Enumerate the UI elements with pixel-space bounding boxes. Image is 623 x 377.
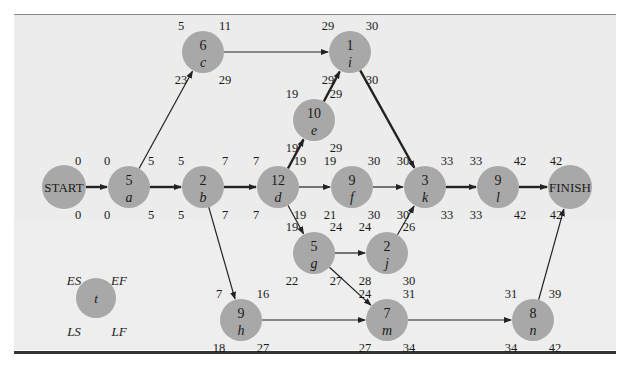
node-duration: 2 — [200, 173, 207, 188]
node-duration: 6 — [200, 38, 207, 53]
node-duration: 10 — [307, 106, 321, 121]
latest-finish: 27 — [257, 341, 270, 355]
node-duration: 2 — [384, 239, 391, 254]
node-duration: 9 — [495, 173, 502, 188]
latest-finish: 7 — [222, 208, 228, 222]
latest-finish: 42 — [549, 341, 562, 355]
node-a: 5a0505 — [104, 154, 154, 222]
node-m: 7m24312734 — [359, 287, 416, 355]
node-activity: h — [238, 323, 245, 338]
earliest-start: 19 — [286, 220, 299, 234]
earliest-finish: 11 — [219, 19, 231, 33]
node-duration: 7 — [384, 306, 391, 321]
latest-finish: 27 — [330, 274, 343, 288]
node-e: 10e19291929 — [286, 87, 343, 155]
latest-start: 19 — [286, 141, 299, 155]
node-duration: 1 — [347, 38, 354, 53]
node-activity: l — [496, 190, 500, 205]
node-j: 2j24262830 — [359, 220, 416, 288]
earliest-start: 19 — [286, 87, 299, 101]
node-activity: m — [382, 323, 392, 338]
node-duration: 9 — [349, 173, 356, 188]
node-k: 3k30333033 — [397, 154, 454, 222]
earliest-start: 24 — [359, 287, 372, 301]
node-g: 5g19242227 — [286, 220, 343, 288]
node-activity: n — [530, 323, 537, 338]
earliest-start: 5 — [178, 154, 184, 168]
earliest-finish: 42 — [514, 154, 527, 168]
node-label: START — [44, 180, 83, 195]
earliest-finish: 19 — [294, 154, 307, 168]
latest-start: 0 — [104, 208, 110, 222]
node-FINISH: FINISH4242 — [548, 154, 592, 222]
project-network: START005a05052b57576c511232912d71971910e… — [0, 0, 623, 377]
latest-finish: 29 — [330, 141, 343, 155]
earliest-start: 42 — [550, 154, 563, 168]
earliest-start: 5 — [178, 19, 184, 33]
earliest-start: 7 — [253, 154, 259, 168]
legend-node-label: t — [94, 291, 98, 306]
latest-finish: 34 — [403, 341, 416, 355]
earliest-finish: 7 — [222, 154, 228, 168]
node-label: FINISH — [549, 180, 591, 195]
earliest-start: 30 — [397, 154, 410, 168]
node-START: START00 — [42, 154, 86, 222]
latest-start: 0 — [75, 208, 81, 222]
earliest-finish: 39 — [549, 287, 562, 301]
latest-start: 29 — [322, 73, 335, 87]
node-duration: 8 — [530, 306, 537, 321]
node-n: 8n31393442 — [505, 287, 562, 355]
legend: t ES EF LS LF — [66, 273, 128, 339]
node-i: 1i29302930 — [322, 19, 379, 87]
earliest-start: 19 — [324, 154, 337, 168]
node-activity: a — [126, 190, 133, 205]
node-activity: e — [311, 123, 317, 138]
node-duration: 9 — [238, 306, 245, 321]
node-duration: 5 — [311, 239, 318, 254]
node-activity: c — [200, 55, 207, 70]
latest-start: 7 — [253, 208, 259, 222]
latest-start: 42 — [550, 208, 563, 222]
earliest-start: 0 — [104, 154, 110, 168]
earliest-finish: 26 — [403, 220, 416, 234]
node-l: 9l33423342 — [470, 154, 527, 222]
latest-start: 33 — [470, 208, 483, 222]
earliest-start: 31 — [505, 287, 518, 301]
node-duration: 5 — [126, 173, 133, 188]
latest-start: 34 — [505, 341, 518, 355]
node-b: 2b5757 — [178, 154, 228, 222]
legend-ls: LS — [66, 324, 81, 339]
earliest-finish: 33 — [441, 154, 454, 168]
latest-start: 23 — [175, 73, 188, 87]
legend-ef: EF — [110, 273, 128, 288]
latest-start: 30 — [397, 208, 410, 222]
node-activity: g — [311, 256, 318, 271]
latest-start: 5 — [178, 208, 184, 222]
legend-es: ES — [66, 273, 82, 288]
latest-finish: 42 — [514, 208, 527, 222]
node-activity: k — [422, 190, 429, 205]
node-activity: i — [348, 55, 352, 70]
node-duration: 12 — [271, 173, 285, 188]
earliest-finish: 5 — [148, 154, 154, 168]
earliest-start: 0 — [75, 154, 81, 168]
latest-start: 27 — [359, 341, 372, 355]
latest-finish: 30 — [366, 73, 379, 87]
earliest-finish: 31 — [403, 287, 416, 301]
latest-finish: 5 — [148, 208, 154, 222]
earliest-finish: 30 — [366, 19, 379, 33]
latest-start: 22 — [286, 274, 299, 288]
node-activity: b — [200, 190, 207, 205]
latest-finish: 30 — [403, 274, 416, 288]
node-h: 9h7161827 — [213, 287, 270, 355]
latest-start: 28 — [359, 274, 372, 288]
node-c: 6c5112329 — [175, 19, 232, 87]
earliest-finish: 24 — [330, 220, 343, 234]
latest-start: 18 — [213, 341, 226, 355]
latest-finish: 33 — [441, 208, 454, 222]
latest-finish: 29 — [219, 73, 232, 87]
earliest-finish: 16 — [257, 287, 270, 301]
earliest-start: 7 — [216, 287, 222, 301]
earliest-finish: 29 — [330, 87, 343, 101]
legend-lf: LF — [110, 324, 127, 339]
